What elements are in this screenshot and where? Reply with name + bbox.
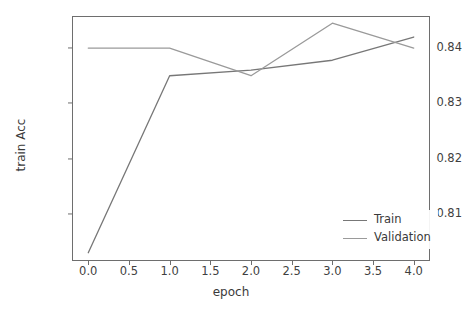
legend-label-train: Train bbox=[374, 214, 402, 226]
x-tick-label: 3.0 bbox=[312, 266, 352, 278]
legend-entry-validation: Validation bbox=[343, 232, 431, 244]
x-tick-mark bbox=[332, 261, 333, 265]
x-tick-mark bbox=[292, 261, 293, 265]
y-tick-mark bbox=[68, 213, 72, 214]
x-tick-mark bbox=[129, 261, 130, 265]
x-tick-label: 0.5 bbox=[109, 266, 149, 278]
chart-legend: Train Validation bbox=[337, 210, 438, 249]
x-tick-label: 4.0 bbox=[394, 266, 434, 278]
x-tick-mark bbox=[251, 261, 252, 265]
legend-label-validation: Validation bbox=[374, 232, 431, 244]
legend-entry-train: Train bbox=[343, 214, 431, 226]
x-tick-label: 2.0 bbox=[231, 266, 271, 278]
legend-swatch-validation bbox=[343, 238, 367, 239]
y-tick-label: 0.83 bbox=[416, 98, 462, 110]
x-tick-mark bbox=[170, 261, 171, 265]
x-tick-mark bbox=[210, 261, 211, 265]
y-tick-mark bbox=[68, 158, 72, 159]
x-tick-mark bbox=[88, 261, 89, 265]
x-axis-label: epoch bbox=[0, 285, 462, 299]
x-tick-label: 0.0 bbox=[68, 266, 108, 278]
x-tick-mark bbox=[373, 261, 374, 265]
x-tick-label: 2.5 bbox=[272, 266, 312, 278]
legend-swatch-train bbox=[343, 220, 367, 221]
y-axis-label: train Acc bbox=[14, 90, 28, 200]
x-tick-label: 3.5 bbox=[353, 266, 393, 278]
x-tick-label: 1.0 bbox=[150, 266, 190, 278]
series-line-validation bbox=[88, 23, 413, 76]
x-tick-mark bbox=[414, 261, 415, 265]
x-tick-label: 1.5 bbox=[190, 266, 230, 278]
y-tick-label: 0.84 bbox=[416, 42, 462, 54]
chart-figure: 0.810.820.830.84 0.00.51.01.52.02.53.03.… bbox=[0, 0, 462, 312]
y-tick-mark bbox=[68, 48, 72, 49]
y-tick-label: 0.82 bbox=[416, 153, 462, 165]
y-tick-mark bbox=[68, 103, 72, 104]
